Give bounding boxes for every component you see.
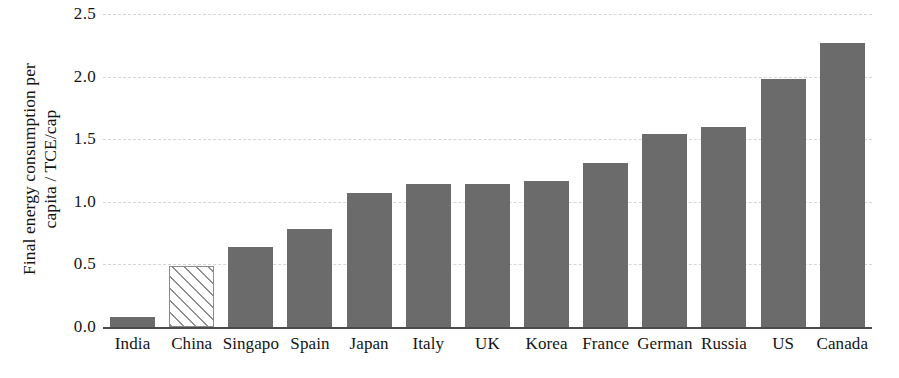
x-label-korea: Korea (517, 334, 576, 364)
bar-spain (287, 229, 332, 327)
bar-singapo (228, 247, 273, 327)
bar-slot (458, 14, 517, 327)
y-tick-label: 1.5 (50, 129, 96, 149)
bars-container (103, 14, 872, 327)
x-label-japan: Japan (340, 334, 399, 364)
bar-slot (517, 14, 576, 327)
bar-slot (576, 14, 635, 327)
y-tick-label: 2.5 (50, 4, 96, 24)
x-label-us: US (754, 334, 813, 364)
x-label-china: China (162, 334, 221, 364)
bar-us (761, 79, 806, 327)
x-label-italy: Italy (399, 334, 458, 364)
bar-india (110, 317, 155, 327)
bar-italy (406, 184, 451, 327)
y-tick-label: 0.0 (50, 317, 96, 337)
x-axis-category-labels: IndiaChinaSingapoSpainJapanItalyUKKoreaF… (103, 334, 872, 364)
bar-slot (813, 14, 872, 327)
bar-france (583, 163, 628, 327)
x-label-spain: Spain (280, 334, 339, 364)
bar-slot (162, 14, 221, 327)
x-label-india: India (103, 334, 162, 364)
bar-slot (694, 14, 753, 327)
x-label-uk: UK (458, 334, 517, 364)
bar-canada (820, 43, 865, 327)
bar-slot (280, 14, 339, 327)
x-label-singapo: Singapo (221, 334, 280, 364)
y-tick-label: 1.0 (50, 192, 96, 212)
x-label-france: France (576, 334, 635, 364)
x-axis-line (103, 327, 872, 329)
bar-slot (399, 14, 458, 327)
bar-slot (340, 14, 399, 327)
bar-china (169, 266, 214, 327)
x-label-canada: Canada (813, 334, 872, 364)
bar-slot (754, 14, 813, 327)
x-label-german: German (635, 334, 694, 364)
y-tick-label: 2.0 (50, 67, 96, 87)
bar-german (642, 134, 687, 327)
y-axis-tick-labels: 0.00.51.01.52.02.5 (50, 0, 96, 378)
bar-chart: Final energy consumption per capita / TC… (0, 0, 899, 378)
bar-slot (221, 14, 280, 327)
bar-slot (635, 14, 694, 327)
bar-uk (465, 184, 510, 327)
x-label-russia: Russia (694, 334, 753, 364)
bar-korea (524, 181, 569, 327)
bar-japan (347, 193, 392, 327)
bar-slot (103, 14, 162, 327)
y-tick-label: 0.5 (50, 254, 96, 274)
bar-russia (701, 127, 746, 327)
